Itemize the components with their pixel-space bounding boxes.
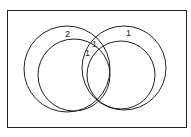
label-intersection-upper: 1 [92,39,97,49]
label-intersection-lower: 1 [85,48,90,58]
diagram-frame [8,11,187,128]
label-right-ring: 1 [126,28,131,38]
label-left-ring: 2 [65,29,70,39]
left-inner-circle [38,39,110,111]
venn-diagram: 2111 [0,0,191,137]
right-inner-circle [87,41,155,109]
